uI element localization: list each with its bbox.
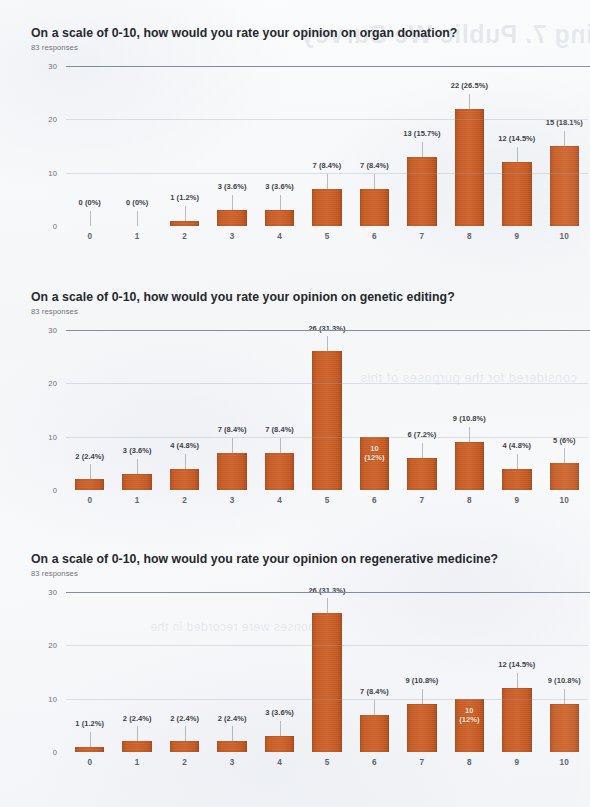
bar-slot[interactable]: 2 (2.4%): [66, 330, 113, 490]
bar[interactable]: [455, 109, 484, 226]
bar[interactable]: [265, 210, 294, 226]
label-leader-line: [280, 438, 281, 453]
x-axis-tick: 7: [398, 496, 445, 505]
bar[interactable]: [455, 442, 484, 490]
bar-slot[interactable]: 2 (2.4%): [161, 592, 208, 752]
bar[interactable]: [312, 613, 341, 752]
x-axis-tick: 4: [256, 758, 303, 767]
bar-value-label: 2 (2.4%): [218, 715, 247, 724]
bar[interactable]: [550, 146, 579, 226]
label-leader-line: [90, 211, 91, 226]
bar[interactable]: [407, 157, 436, 226]
x-axis-labels: 012345678910: [66, 496, 588, 505]
y-axis-labels: 0102030: [31, 66, 57, 226]
bar[interactable]: [122, 741, 151, 752]
bar[interactable]: [550, 463, 579, 490]
bar-slot[interactable]: 3 (3.6%): [256, 66, 303, 226]
bar[interactable]: [75, 747, 104, 752]
bar-value-label: 4 (4.8%): [502, 442, 531, 451]
bar[interactable]: [502, 688, 531, 752]
label-leader-line: [517, 147, 518, 162]
bar[interactable]: [170, 221, 199, 226]
label-leader-line: [517, 673, 518, 688]
bar-value-label: 9 (10.8%): [405, 677, 438, 686]
bar-slot[interactable]: 2 (2.4%): [113, 592, 160, 752]
bar-value-label: 7 (8.4%): [265, 426, 294, 435]
bar[interactable]: [170, 741, 199, 752]
bar-slot[interactable]: 7 (8.4%): [351, 592, 398, 752]
bar[interactable]: [75, 479, 104, 490]
x-axis-tick: 3: [208, 758, 255, 767]
bar-slot[interactable]: 4 (4.8%): [493, 330, 540, 490]
bar-slot[interactable]: 10(12%): [446, 592, 493, 752]
bar-slot[interactable]: 3 (3.6%): [208, 66, 255, 226]
bar-slot[interactable]: 0 (0%): [66, 66, 113, 226]
bar-slot[interactable]: 7 (8.4%): [303, 66, 350, 226]
gridline: [66, 173, 588, 174]
bar-slot[interactable]: 6 (7.2%): [398, 330, 445, 490]
bar-slot[interactable]: 9 (10.8%): [446, 330, 493, 490]
bar[interactable]: [360, 715, 389, 752]
bar[interactable]: [122, 474, 151, 490]
bar-slot[interactable]: 12 (14.5%): [493, 66, 540, 226]
x-axis-tick: 10: [541, 758, 588, 767]
bar[interactable]: [217, 741, 246, 752]
bar[interactable]: [312, 351, 341, 490]
bar-slot[interactable]: 15 (18.1%): [541, 66, 588, 226]
bar-slot[interactable]: 12 (14.5%): [493, 592, 540, 752]
bar[interactable]: [407, 704, 436, 752]
bar-slot[interactable]: 2 (2.4%): [208, 592, 255, 752]
bar-slot[interactable]: 13 (15.7%): [398, 66, 445, 226]
label-leader-line: [422, 689, 423, 704]
bar-slot[interactable]: 1 (1.2%): [66, 592, 113, 752]
label-leader-line: [185, 726, 186, 741]
bar-slot[interactable]: 7 (8.4%): [351, 66, 398, 226]
bar[interactable]: [265, 453, 294, 490]
label-leader-line: [232, 438, 233, 453]
bar-value-label: 2 (2.4%): [123, 715, 152, 724]
bar[interactable]: [502, 162, 531, 226]
label-leader-line: [564, 131, 565, 146]
chart-subtitle: 83 responses: [31, 569, 590, 578]
bar-slot[interactable]: 9 (10.8%): [541, 592, 588, 752]
y-axis-tick: 20: [31, 641, 57, 650]
bar-value-label: 7 (8.4%): [360, 688, 389, 697]
x-axis-tick: 7: [398, 758, 445, 767]
bar[interactable]: [360, 189, 389, 226]
y-axis-labels: 0102030: [31, 592, 57, 752]
label-leader-line: [232, 726, 233, 741]
bar-slot[interactable]: 1 (1.2%): [161, 66, 208, 226]
bar[interactable]: [407, 458, 436, 490]
bar-slot[interactable]: 26 (31.3%): [303, 330, 350, 490]
bar-value-label: 4 (4.8%): [170, 442, 199, 451]
y-axis-tick: 10: [31, 694, 57, 703]
bar-slot[interactable]: 0 (0%): [113, 66, 160, 226]
bar[interactable]: [502, 469, 531, 490]
plot-area: 0102030 2 (2.4%)3 (3.6%)4 (4.8%)7 (8.4%)…: [0, 330, 590, 490]
bar-slot[interactable]: 7 (8.4%): [256, 330, 303, 490]
y-axis-tick: 0: [31, 222, 57, 231]
bar-slot[interactable]: 3 (3.6%): [113, 330, 160, 490]
bar-slot[interactable]: 22 (26.5%): [446, 66, 493, 226]
bar[interactable]: [312, 189, 341, 226]
bar-slot[interactable]: 9 (10.8%): [398, 592, 445, 752]
bar-slot[interactable]: 3 (3.6%): [256, 592, 303, 752]
x-axis-tick: 6: [351, 232, 398, 241]
bar-slot[interactable]: 26 (31.3%): [303, 592, 350, 752]
bar-slot[interactable]: 5 (6%): [541, 330, 588, 490]
label-leader-line: [137, 726, 138, 741]
x-axis-tick: 3: [208, 496, 255, 505]
x-axis-tick: 6: [351, 496, 398, 505]
x-axis-tick: 5: [303, 232, 350, 241]
x-axis-tick: 5: [303, 758, 350, 767]
chart-subtitle: 83 responses: [31, 43, 590, 52]
bar-slot[interactable]: 10(12%): [351, 330, 398, 490]
bar[interactable]: [265, 736, 294, 752]
bar-slot[interactable]: 7 (8.4%): [208, 330, 255, 490]
bar[interactable]: [170, 469, 199, 490]
bar[interactable]: [217, 210, 246, 226]
x-axis-tick: 8: [446, 232, 493, 241]
bar[interactable]: [217, 453, 246, 490]
bar-slot[interactable]: 4 (4.8%): [161, 330, 208, 490]
bar[interactable]: [550, 704, 579, 752]
